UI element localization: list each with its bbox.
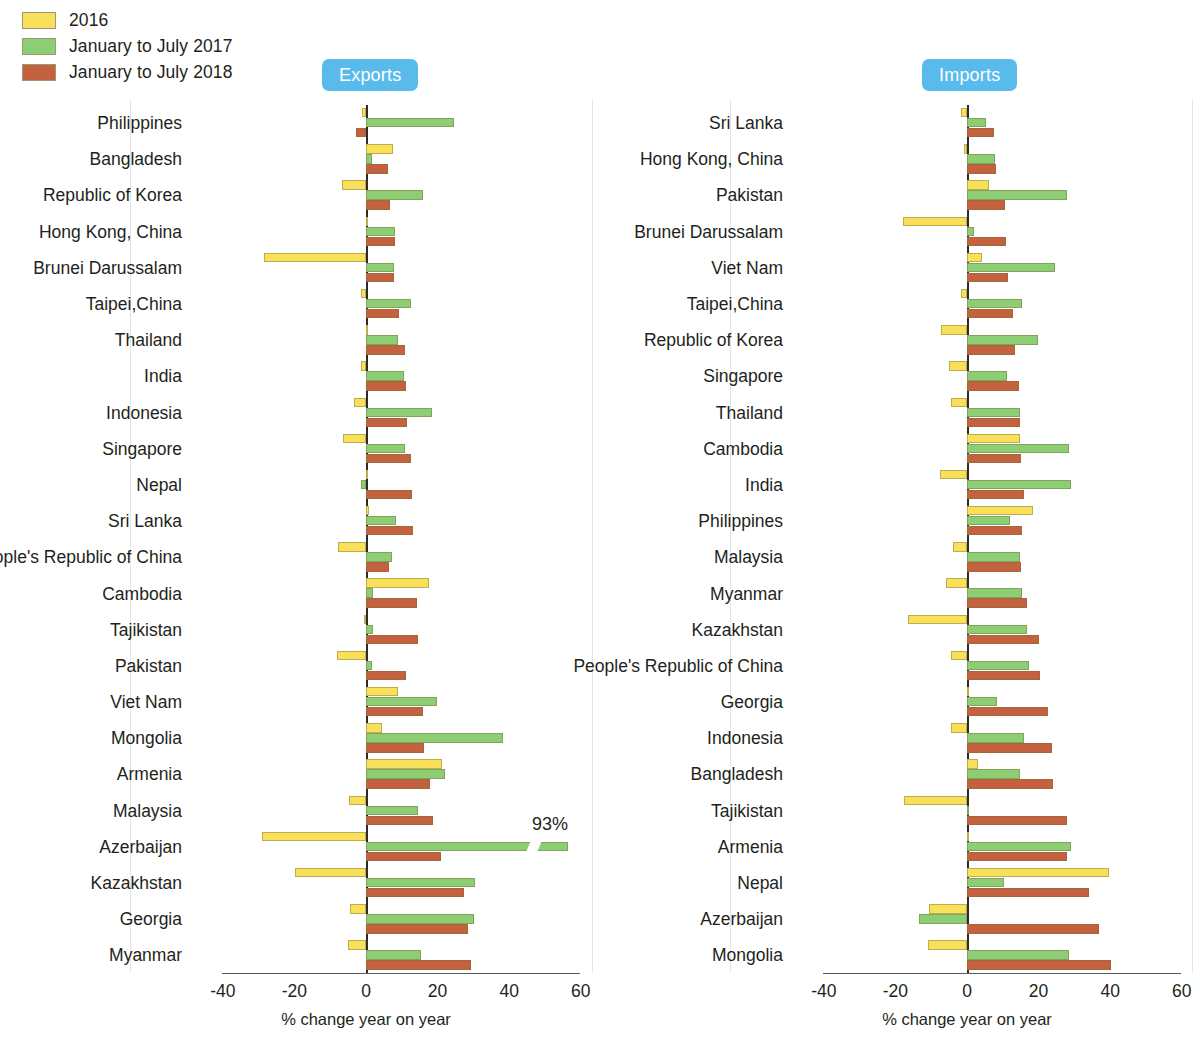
bar-january-to-july-2017: [967, 552, 1020, 561]
bar-january-to-july-2018: [366, 888, 464, 897]
chart-row: Nepal: [0, 467, 600, 503]
bar-2016: [343, 434, 366, 443]
chart-row: Republic of Korea: [600, 322, 1200, 358]
x-axis-tick-label: 60: [571, 981, 590, 1002]
bar-january-to-july-2017: [967, 227, 974, 236]
bar-group: [0, 865, 600, 901]
bar-january-to-july-2018: [967, 418, 1020, 427]
bar-january-to-july-2017: [366, 299, 411, 308]
bar-group: [0, 684, 600, 720]
exports-plot-area: PhilippinesBangladeshRepublic of KoreaHo…: [0, 105, 600, 973]
x-axis-title: % change year on year: [281, 1010, 451, 1029]
bar-group: [0, 467, 600, 503]
bar-2016: [342, 180, 366, 189]
bar-january-to-july-2018: [967, 671, 1040, 680]
chart-row: Viet Nam: [600, 250, 1200, 286]
bar-january-to-july-2018: [366, 490, 412, 499]
bar-2016: [953, 542, 967, 551]
bar-group: [600, 648, 1200, 684]
x-axis-tick-label: -20: [883, 981, 908, 1002]
bar-2016: [361, 289, 366, 298]
bar-january-to-july-2018: [366, 164, 388, 173]
chart-row: Bangladesh: [0, 141, 600, 177]
bar-january-to-july-2018: [967, 598, 1027, 607]
bar-january-to-july-2018: [366, 454, 411, 463]
chart-row: Taipei,China: [0, 286, 600, 322]
bar-january-to-july-2017: [366, 118, 454, 127]
bar-group: [600, 467, 1200, 503]
bar-group: [0, 575, 600, 611]
bar-january-to-july-2018: [366, 309, 399, 318]
bar-2016: [940, 470, 967, 479]
bar-group: [0, 793, 600, 829]
bar-january-to-july-2018: [967, 635, 1039, 644]
bar-group: [600, 395, 1200, 431]
bar-group: [600, 141, 1200, 177]
chart-row: Malaysia: [0, 793, 600, 829]
bar-january-to-july-2018: [366, 635, 418, 644]
bar-group: [0, 286, 600, 322]
bar-group: [600, 829, 1200, 865]
chart-row: Philippines: [0, 105, 600, 141]
bar-january-to-july-2018: [967, 454, 1021, 463]
bar-2016: [928, 940, 967, 949]
bar-group: [0, 829, 600, 865]
bar-january-to-july-2018: [356, 128, 366, 137]
bar-2016: [967, 253, 982, 262]
chart-row: India: [600, 467, 1200, 503]
bar-january-to-july-2018: [967, 852, 1067, 861]
chart-row: India: [0, 358, 600, 394]
x-axis-tick-label: -20: [282, 981, 307, 1002]
bar-2016: [908, 615, 967, 624]
bar-january-to-july-2018: [967, 237, 1006, 246]
bar-2016: [967, 868, 1109, 877]
bar-january-to-july-2018: [366, 924, 468, 933]
bar-january-to-july-2017: [967, 263, 1055, 272]
bar-2016: [366, 687, 398, 696]
bar-january-to-july-2018: [967, 924, 1099, 933]
bar-january-to-july-2017: [967, 154, 995, 163]
bar-group: [600, 177, 1200, 213]
bar-january-to-july-2017: [366, 697, 437, 706]
bar-2016: [338, 542, 366, 551]
chart-row: Taipei,China: [600, 286, 1200, 322]
bar-january-to-july-2017: [366, 806, 418, 815]
bar-january-to-july-2018: [366, 381, 406, 390]
bar-group: [0, 431, 600, 467]
bar-january-to-july-2018: [967, 526, 1022, 535]
bar-group: [0, 648, 600, 684]
bar-january-to-july-2017: [967, 697, 997, 706]
bar-january-to-july-2017: [967, 878, 1004, 887]
bar-january-to-july-2018: [967, 128, 994, 137]
bar-january-to-july-2017: [967, 769, 1020, 778]
bar-2016: [967, 506, 1033, 515]
chart-row: Bangladesh: [600, 756, 1200, 792]
chart-row: Mongolia: [600, 937, 1200, 973]
bar-january-to-july-2018: [366, 816, 433, 825]
bar-2016: [354, 398, 366, 407]
bar-january-to-july-2017: [366, 625, 373, 634]
bar-january-to-july-2017: [967, 733, 1024, 742]
bar-january-to-july-2017: [366, 516, 396, 525]
bar-group: [0, 720, 600, 756]
bar-january-to-july-2018: [366, 598, 417, 607]
bar-2016: [364, 615, 366, 624]
bar-january-to-july-2017: [967, 806, 969, 815]
bar-january-to-july-2017: [967, 588, 1022, 597]
bar-january-to-july-2017: [967, 480, 1071, 489]
bar-january-to-july-2018: [967, 779, 1053, 788]
bar-group: [600, 865, 1200, 901]
bar-january-to-july-2017: [366, 552, 392, 561]
bar-2016: [967, 832, 969, 841]
bar-group: [600, 937, 1200, 973]
bar-2016: [951, 398, 967, 407]
bar-2016: [366, 578, 429, 587]
bar-2016: [349, 796, 366, 805]
bar-2016: [262, 832, 366, 841]
bar-2016: [366, 325, 368, 334]
chart-row: Indonesia: [0, 395, 600, 431]
bar-january-to-july-2018: [366, 418, 407, 427]
bar-group: [600, 431, 1200, 467]
chart-row: Tajikistan: [600, 793, 1200, 829]
bar-2016: [366, 759, 442, 768]
